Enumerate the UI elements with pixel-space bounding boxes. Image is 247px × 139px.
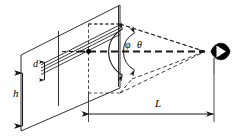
diagram-canvas (0, 0, 247, 139)
grating-slit-lines (41, 25, 120, 75)
label-h: h (13, 88, 19, 99)
figure-container: h d L φ θ (0, 0, 247, 139)
grating-center-point (86, 49, 91, 54)
label-theta-angle: θ (137, 40, 142, 50)
eye-icon (211, 43, 230, 74)
label-phi-angle: φ (125, 40, 131, 50)
label-L: L (155, 98, 161, 109)
label-d: d (33, 59, 38, 69)
dimension-L (89, 74, 215, 122)
